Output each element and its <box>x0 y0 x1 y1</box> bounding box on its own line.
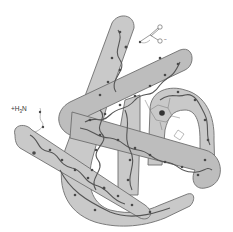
protein-diagram: .tube { fill: #c9c9c9; stroke: #6e6e6e; … <box>0 0 233 232</box>
c-terminus-group <box>141 25 162 43</box>
n-terminus-label: +H3N <box>11 106 27 115</box>
protein-tube-diagram: .tube { fill: #c9c9c9; stroke: #6e6e6e; … <box>0 0 233 232</box>
c-terminus-charge: − <box>164 37 167 42</box>
